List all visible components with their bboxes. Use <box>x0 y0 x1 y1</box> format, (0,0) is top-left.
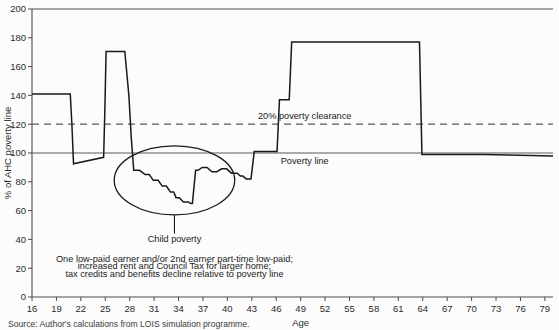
y-tick-label: 40 <box>15 234 26 245</box>
x-tick-label: 43 <box>247 303 258 314</box>
x-tick-label: 46 <box>271 303 282 314</box>
x-tick-label: 61 <box>393 303 404 314</box>
source-note-wrapper: Source: Author's calculations from LOIS … <box>8 319 249 329</box>
annotation-line-3: tax credits and benefits decline relativ… <box>65 269 283 279</box>
x-tick-label: 37 <box>198 303 209 314</box>
x-tick-label: 79 <box>540 303 551 314</box>
source-note: Source: Author's calculations from LOIS … <box>8 319 249 329</box>
y-axis-title: % of AHC poverty line <box>2 107 13 199</box>
x-tick-label: 76 <box>515 303 526 314</box>
y-tick-label: 140 <box>10 90 26 101</box>
x-tick-label: 67 <box>442 303 453 314</box>
x-tick-label: 31 <box>149 303 160 314</box>
x-tick-label: 25 <box>100 303 111 314</box>
poverty-line-label: Poverty line <box>281 156 329 166</box>
y-tick-label: 160 <box>10 61 26 72</box>
y-tick-label: 20 <box>15 263 26 274</box>
child-poverty-text: Child poverty <box>148 234 202 244</box>
x-tick-label: 19 <box>51 303 62 314</box>
y-tick-label: 180 <box>10 32 26 43</box>
x-tick-label: 70 <box>466 303 477 314</box>
x-tick-label: 16 <box>27 303 38 314</box>
y-tick-label: 0 <box>21 291 26 302</box>
x-tick-label: 73 <box>491 303 502 314</box>
x-tick-label: 64 <box>417 303 428 314</box>
y-tick-label: 60 <box>15 205 26 216</box>
poverty-clearance-label: 20% poverty clearance <box>258 111 351 121</box>
poverty-line-chart: 0204060801001201401601802001619222528313… <box>0 0 559 330</box>
x-tick-label: 55 <box>344 303 355 314</box>
x-tick-label: 34 <box>173 303 184 314</box>
x-tick-label: 28 <box>124 303 135 314</box>
x-tick-label: 58 <box>369 303 380 314</box>
x-tick-label: 52 <box>320 303 331 314</box>
y-tick-label: 80 <box>15 176 26 187</box>
x-axis-title: Age <box>292 317 309 328</box>
plot-background <box>0 0 559 330</box>
figure-container: 0204060801001201401601802001619222528313… <box>0 0 559 330</box>
x-tick-label: 49 <box>295 303 306 314</box>
x-tick-label: 40 <box>222 303 233 314</box>
y-tick-label: 200 <box>10 3 26 14</box>
x-tick-label: 22 <box>76 303 87 314</box>
